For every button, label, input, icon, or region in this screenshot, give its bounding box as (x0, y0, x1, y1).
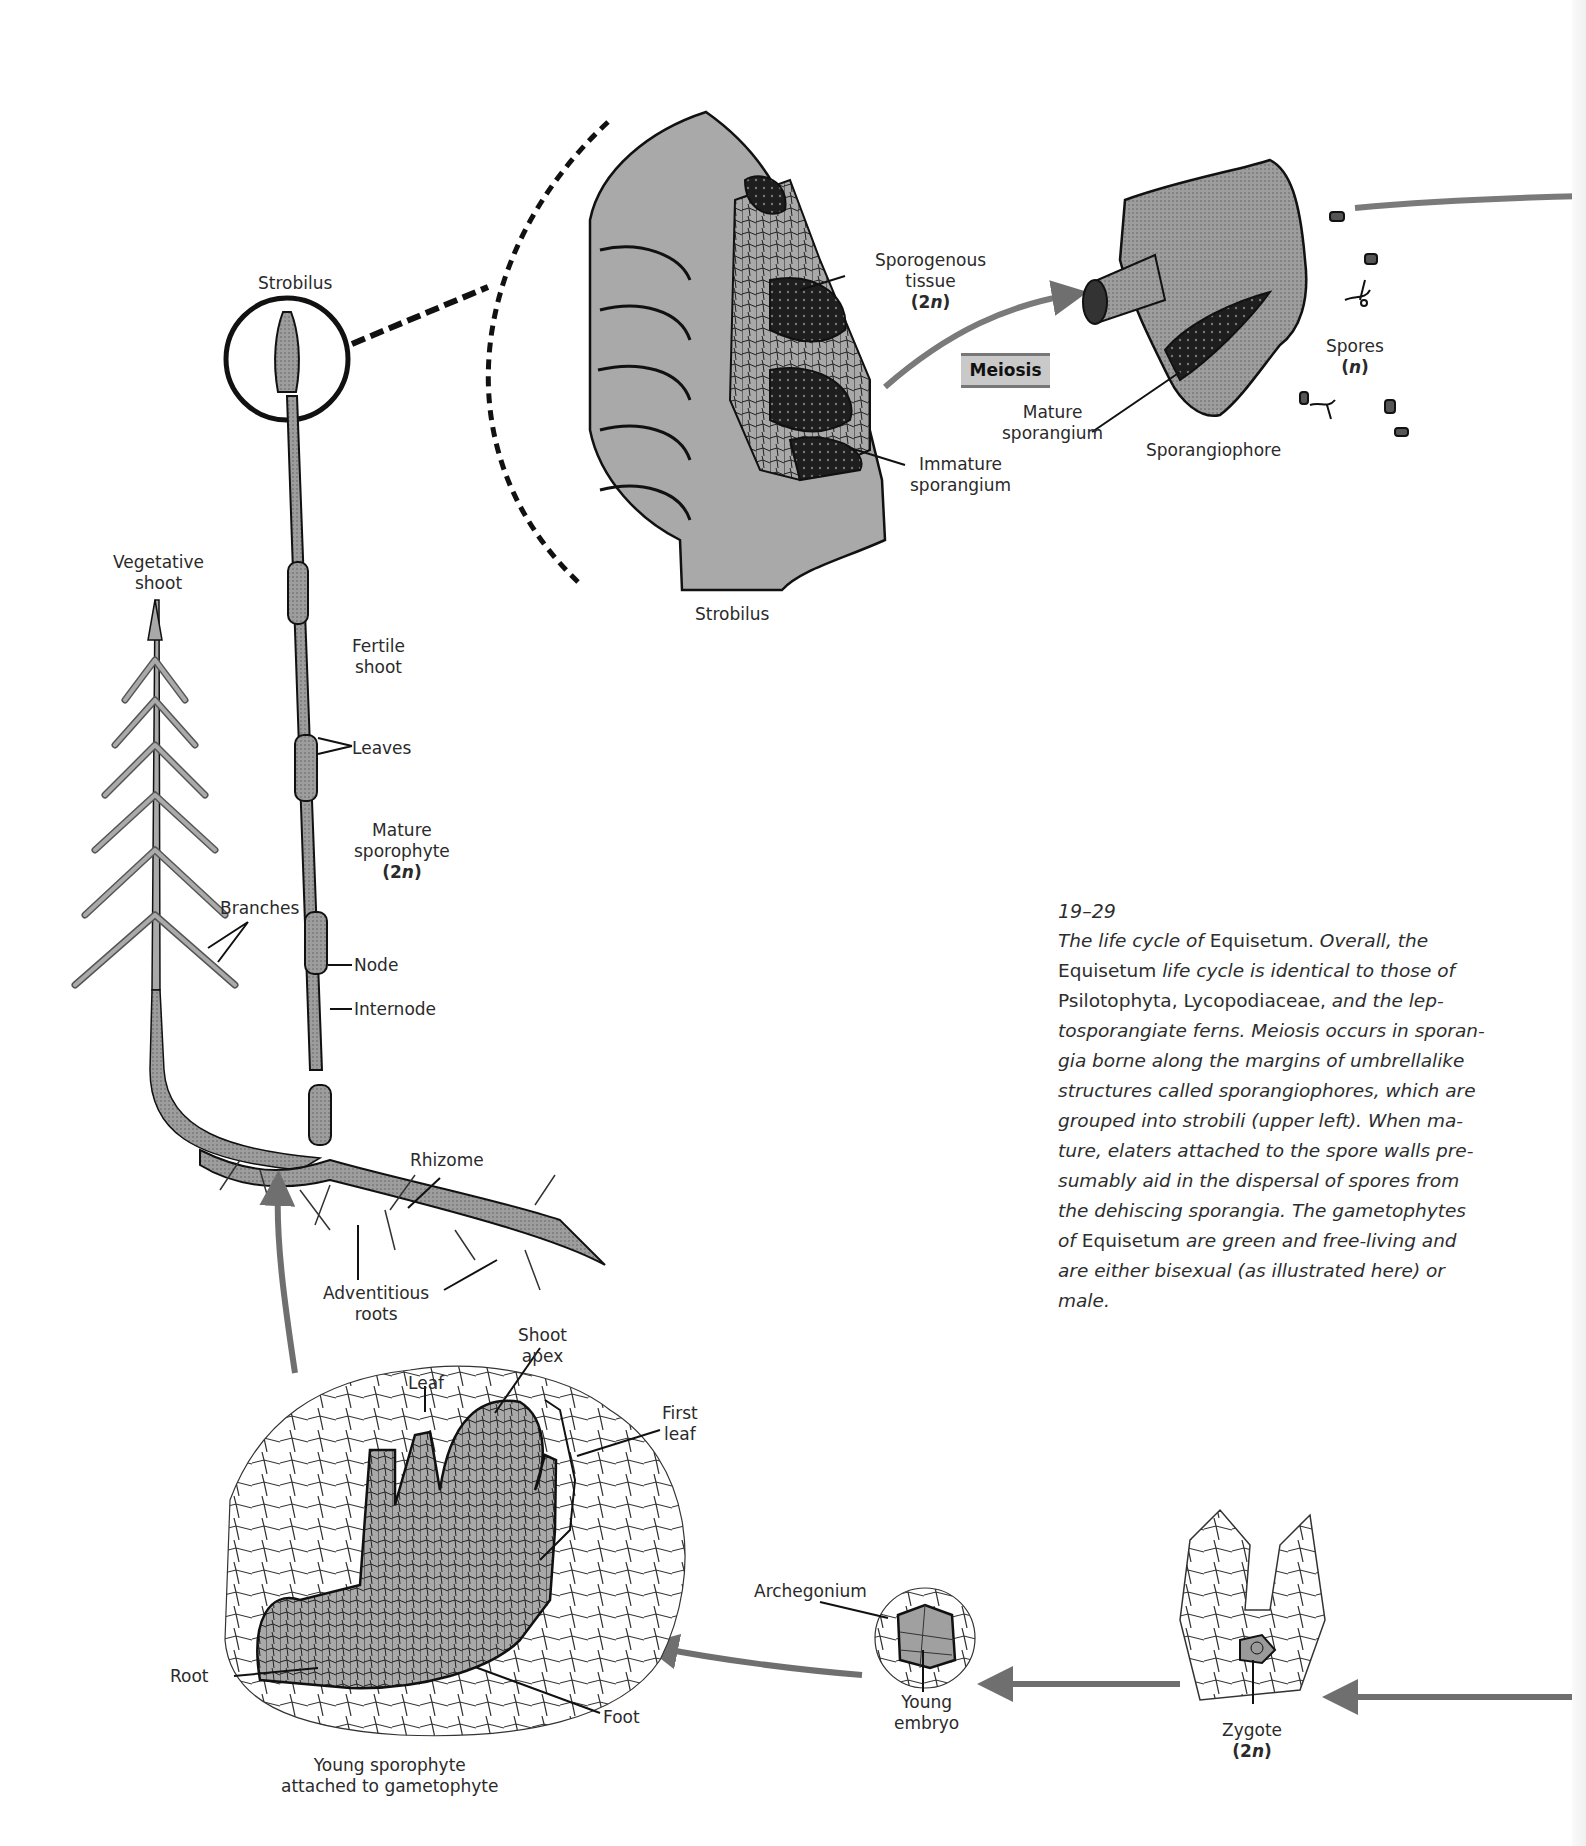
label-leaves: Leaves (352, 738, 411, 759)
label-first-leaf: First leaf (662, 1403, 698, 1445)
arrow-embryo-to-young-sporophyte (660, 1648, 862, 1675)
rhizome-drawing (200, 1150, 605, 1290)
sporangiophore-drawing (1083, 160, 1306, 432)
strobilus-zoom-callout (226, 122, 608, 582)
label-mature-sporophyte: Mature sporophyte (2n) (354, 820, 450, 883)
caption-segment: Equisetum (1210, 930, 1308, 951)
spores-drawing (1300, 212, 1408, 436)
label-mature-sporangium: Mature sporangium (1002, 402, 1103, 444)
caption-segment: Overall, the (1320, 930, 1428, 951)
caption-segment: Psilotophyta, Lycopodiaceae, (1058, 990, 1326, 1011)
label-vegetative-shoot: Vegetative shoot (113, 552, 204, 594)
label-young-sporophyte: Young sporophyte attached to gametophyte (281, 1755, 498, 1797)
meiosis-box: Meiosis (961, 353, 1050, 388)
caption-segment: Equisetum (1058, 960, 1156, 981)
label-internode: Internode (354, 999, 436, 1020)
label-zygote: Zygote (2n) (1222, 1720, 1282, 1762)
caption-segment: Equisetum (1082, 1230, 1180, 1251)
label-fertile-shoot: Fertile shoot (352, 636, 405, 678)
label-rhizome: Rhizome (410, 1150, 484, 1171)
label-branches: Branches (220, 898, 299, 919)
caption-segment: . (1308, 930, 1320, 951)
vegetative-shoot-drawing (75, 600, 320, 1170)
arrow-spores-to-gametophyte (1355, 196, 1586, 208)
label-sporogenous-tissue: Sporogenous tissue (2n) (875, 250, 986, 313)
label-strobilus-section: Strobilus (695, 604, 769, 625)
label-immature-sporangium: Immature sporangium (910, 454, 1011, 496)
young-sporophyte-drawing (225, 1348, 685, 1736)
figure-caption: 19–29 The life cycle of Equisetum. Overa… (1058, 896, 1488, 1316)
arrow-young-to-mature-sporophyte (278, 1188, 295, 1373)
caption-segment: and the lep­tosporangiate ferns. Meiosis… (1058, 990, 1485, 1251)
label-strobilus-top: Strobilus (258, 273, 332, 294)
label-shoot-apex: Shoot apex (518, 1325, 567, 1367)
label-young-embryo: Young embryo (894, 1692, 959, 1734)
figure-number: 19–29 (1058, 896, 1488, 926)
strobilus-section-drawing (590, 112, 905, 590)
ploidy-2n: (2n) (354, 862, 450, 883)
page-edge (1572, 0, 1586, 1846)
label-leaf: Leaf (408, 1373, 444, 1394)
label-archegonium: Archegonium (754, 1581, 867, 1602)
zygote-drawing (1180, 1510, 1325, 1704)
label-adventitious-roots: Adventitious roots (323, 1283, 429, 1325)
fertile-shoot-drawing (287, 396, 331, 1145)
label-spores: Spores (n) (1326, 336, 1384, 378)
label-foot: Foot (603, 1707, 640, 1728)
label-node: Node (354, 955, 398, 976)
label-sporangiophore: Sporangiophore (1146, 440, 1281, 461)
caption-body: The life cycle of Equisetum. Overall, th… (1058, 930, 1485, 1311)
label-root: Root (170, 1666, 209, 1687)
caption-segment: The life cycle of (1058, 930, 1210, 951)
caption-segment: life cycle is identical to those of (1156, 960, 1455, 981)
